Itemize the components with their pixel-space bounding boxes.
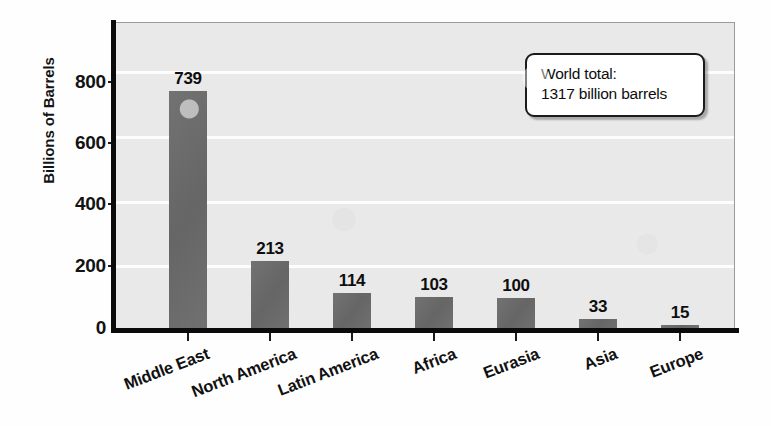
- plot-area: 739 213 114 103 100 33 15 World total: 1…: [115, 22, 735, 330]
- gridline-400: [115, 201, 734, 204]
- bar-value-north-america: 213: [230, 239, 310, 259]
- world-total-line-2: 1317 billion barrels: [541, 84, 703, 104]
- y-tick-label-0: 0: [50, 317, 106, 339]
- y-tick-label-200: 200: [50, 255, 106, 277]
- bar-chart-figure: Billions of Barrels 800 600 400 200 0 73…: [0, 0, 771, 426]
- x-tick-mark-north-america: [269, 333, 271, 341]
- bar-eurasia[interactable]: [497, 298, 535, 330]
- world-total-line-1: World total:: [541, 64, 703, 84]
- y-tick-label-800: 800: [50, 71, 106, 93]
- bar-value-europe: 15: [640, 303, 720, 323]
- y-tick-label-400: 400: [50, 193, 106, 215]
- gridline-600: [115, 136, 734, 139]
- y-tick-label-600: 600: [50, 132, 106, 154]
- bar-africa[interactable]: [415, 297, 453, 330]
- bar-value-latin-america: 114: [312, 271, 392, 291]
- bar-value-africa: 103: [394, 275, 474, 295]
- world-total-callout: World total: 1317 billion barrels: [525, 53, 705, 117]
- x-tick-mark-europe: [679, 333, 681, 341]
- x-tick-mark-asia: [597, 333, 599, 341]
- bar-value-eurasia: 100: [476, 276, 556, 296]
- bar-latin-america[interactable]: [333, 293, 371, 330]
- bar-middle-east[interactable]: [169, 91, 207, 330]
- y-axis-spine: [111, 20, 116, 333]
- bar-value-middle-east: 739: [148, 69, 228, 89]
- bar-north-america[interactable]: [251, 261, 289, 330]
- x-tick-mark-eurasia: [515, 333, 517, 341]
- gridline-200: [115, 265, 734, 268]
- bar-value-asia: 33: [558, 297, 638, 317]
- y-axis-tick-labels: 800 600 400 200 0: [46, 0, 106, 426]
- x-axis-spine: [111, 328, 739, 333]
- x-tick-mark-latin-america: [351, 333, 353, 341]
- x-tick-mark-africa: [433, 333, 435, 341]
- x-tick-mark-middle-east: [187, 333, 189, 341]
